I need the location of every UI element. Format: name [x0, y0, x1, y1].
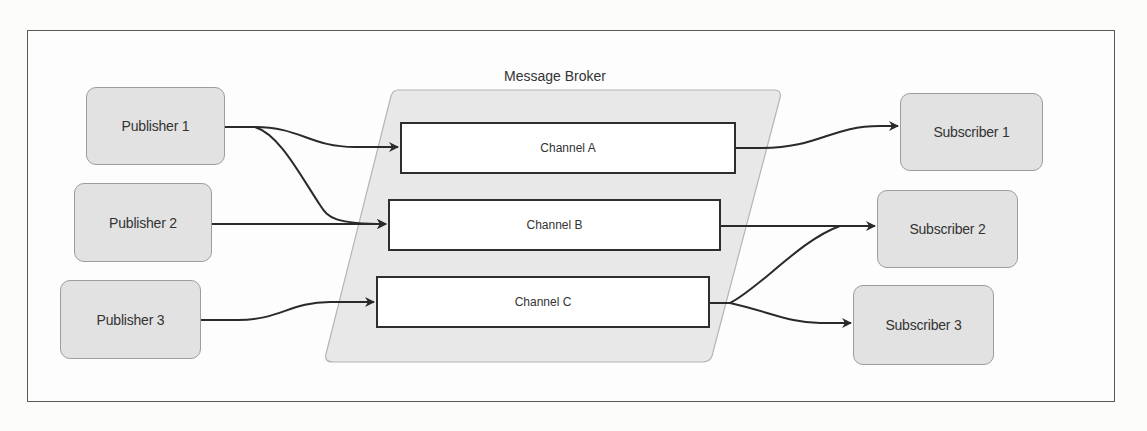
subscriber-3[interactable]: Subscriber 3 — [853, 285, 994, 365]
subscriber-3-label: Subscriber 3 — [885, 317, 961, 333]
channel-a-label: Channel A — [540, 141, 595, 155]
publisher-1[interactable]: Publisher 1 — [86, 87, 225, 165]
channel-b-label: Channel B — [526, 218, 582, 232]
channel-a[interactable]: Channel A — [400, 122, 736, 174]
publisher-1-label: Publisher 1 — [122, 118, 190, 134]
publisher-2-label: Publisher 2 — [109, 215, 177, 231]
channel-c[interactable]: Channel C — [376, 276, 710, 328]
subscriber-1-label: Subscriber 1 — [933, 124, 1009, 140]
subscriber-1[interactable]: Subscriber 1 — [900, 93, 1043, 171]
channel-b[interactable]: Channel B — [388, 199, 721, 251]
publisher-3[interactable]: Publisher 3 — [60, 280, 201, 359]
channel-c-label: Channel C — [515, 295, 572, 309]
message-broker-title: Message Broker — [480, 68, 630, 84]
subscriber-2-label: Subscriber 2 — [909, 221, 985, 237]
edge-publisher1-channel-a — [224, 127, 398, 147]
publisher-2[interactable]: Publisher 2 — [74, 183, 212, 262]
edge-channel-c-subscriber3 — [730, 303, 851, 323]
subscriber-2[interactable]: Subscriber 2 — [877, 190, 1018, 268]
publisher-3-label: Publisher 3 — [97, 312, 165, 328]
